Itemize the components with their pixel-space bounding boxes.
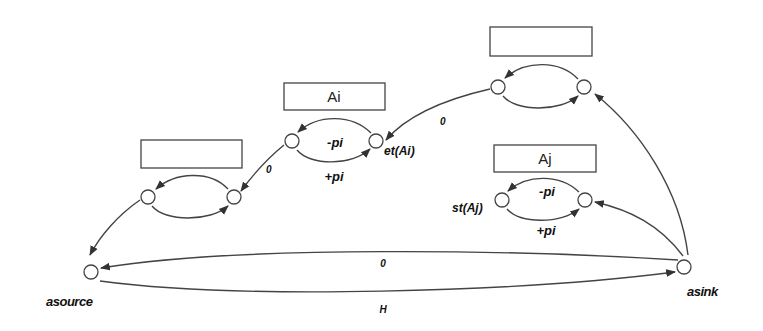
edge-topright-to-ai	[386, 89, 490, 140]
edge-ai-to-left	[241, 145, 284, 191]
arc-plus-topright	[503, 96, 578, 108]
label-edge-sink-source: 0	[380, 258, 386, 269]
edge-sink-to-source	[101, 252, 678, 268]
arc-minus-left	[156, 175, 228, 189]
arc-plus-aj	[507, 209, 579, 220]
arc-plus-left	[152, 206, 228, 218]
node-aj-end	[578, 193, 592, 207]
label-source: asource	[46, 294, 93, 309]
activity-topright	[490, 27, 592, 56]
arc-minus-topright	[505, 65, 578, 79]
edge-sink-to-topright	[595, 94, 688, 255]
activity-box-left	[141, 140, 242, 168]
node-aj-start	[495, 193, 509, 207]
network-diagram: Ai Aj -pi +pi -pi +pi et(Ai) st(Aj) 0 0 …	[0, 0, 763, 331]
node-ai-start	[285, 134, 299, 148]
node-source	[84, 265, 98, 279]
activity-label-aj: Aj	[538, 150, 551, 167]
node-ai-end	[369, 134, 383, 148]
label-ai-minus: -pi	[327, 135, 343, 150]
node-left-end	[227, 190, 241, 204]
label-aj-plus: +pi	[536, 223, 556, 238]
label-sink: asink	[687, 284, 719, 299]
diagram-canvas: Ai Aj -pi +pi -pi +pi et(Ai) st(Aj) 0 0 …	[0, 0, 763, 331]
edge-sink-to-aj	[595, 202, 683, 256]
activity-left	[141, 140, 242, 168]
label-aj-minus: -pi	[539, 184, 555, 199]
label-edge-ai-left: 0	[266, 164, 272, 175]
node-sink	[677, 260, 691, 274]
activity-ai: Ai	[284, 83, 385, 110]
edge-source-to-sink	[100, 272, 675, 292]
label-st-aj: st(Aj)	[452, 201, 483, 215]
label-et-ai: et(Ai)	[384, 144, 415, 158]
node-left-start	[141, 190, 155, 204]
arc-minus-ai	[298, 119, 371, 133]
activity-box-topright	[490, 27, 592, 56]
node-topright-start	[491, 80, 505, 94]
arc-plus-ai	[297, 149, 370, 162]
label-edge-source-sink: H	[379, 304, 387, 315]
edge-left-to-source	[90, 200, 140, 255]
activity-aj: Aj	[494, 145, 596, 172]
label-ai-plus: +pi	[324, 169, 344, 184]
node-topright-end	[577, 80, 591, 94]
activity-label-ai: Ai	[327, 88, 340, 105]
label-edge-topright-ai: 0	[440, 116, 446, 127]
